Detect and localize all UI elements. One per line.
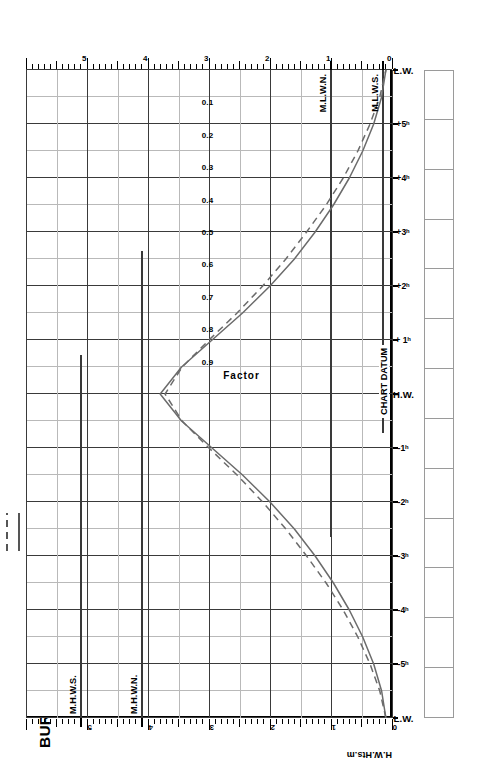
time-entry-box-1[interactable] <box>425 617 453 667</box>
factor-tick-label-0.4: 0.4 <box>202 195 213 204</box>
height-tick-right-6.0 <box>26 58 28 69</box>
label-mlws: M.L.W.S. <box>370 74 380 112</box>
height-tick-right-3.4 <box>184 64 185 69</box>
height-tick-label-left-3: 3 <box>209 723 214 732</box>
height-tick-right-1.1 <box>324 64 325 69</box>
time-entry-box-2[interactable] <box>425 567 453 617</box>
height-tick-right-0.3 <box>373 64 374 69</box>
height-tick-right-2.6 <box>233 64 234 69</box>
rotated-diagram-wrapper: BURNHAM-ON-CROUCH MEAN SPRING AND NEAP C… <box>0 0 478 774</box>
height-tick-right-2.1 <box>263 64 264 69</box>
height-tick-right-3.1 <box>202 64 203 69</box>
time-entry-box-9[interactable] <box>425 219 453 269</box>
height-tick-left-4.2 <box>135 719 136 724</box>
height-tick-left-4.1 <box>141 719 142 724</box>
height-tick-left-1.2 <box>318 719 319 724</box>
height-tick-left-4.9 <box>93 719 94 724</box>
height-tick-left-3.1 <box>202 719 203 724</box>
height-tick-right-5.7 <box>44 64 45 69</box>
label-mhws: M.H.W.S. <box>68 675 78 714</box>
height-tick-right-3.7 <box>166 64 167 69</box>
height-tick-left-3.6 <box>172 719 173 724</box>
height-tick-right-5.3 <box>68 64 69 69</box>
time-axis-label-12: L.W. <box>393 65 413 76</box>
height-tick-right-1.6 <box>294 64 295 69</box>
factor-tick-label-0.3: 0.3 <box>202 163 213 172</box>
legend-key-solid-line <box>18 513 20 551</box>
label-mlwn: M.L.W.N. <box>318 74 328 112</box>
height-tick-right-4.4 <box>123 64 124 69</box>
height-tick-left-1.7 <box>288 719 289 724</box>
height-tick-right-1.2 <box>318 64 319 69</box>
time-entry-box-12[interactable] <box>425 69 453 119</box>
height-tick-label-left-0: 0 <box>392 723 397 732</box>
height-axis-left-label: H.W.Hts.m <box>347 750 392 760</box>
height-tick-left-2.9 <box>215 719 216 724</box>
height-tick-left-1.4 <box>306 719 307 724</box>
time-entry-box-11[interactable] <box>425 119 453 169</box>
height-tick-right-0.4 <box>367 64 368 69</box>
height-tick-left-2.7 <box>227 719 228 724</box>
height-tick-left-4.5 <box>117 719 118 727</box>
height-tick-left-4.7 <box>105 719 106 724</box>
time-axis-label-8: +2ʰ <box>396 281 409 291</box>
time-entry-box-4[interactable] <box>425 468 453 518</box>
height-tick-label-right-5: 5 <box>82 54 87 63</box>
height-tick-left-0.3 <box>373 719 374 724</box>
height-tick-left-1.3 <box>312 719 313 724</box>
time-entry-box-10[interactable] <box>425 169 453 219</box>
height-tick-right-4.6 <box>111 64 112 69</box>
height-tick-right-0.8 <box>343 64 344 69</box>
chart-datum-label: CHART DATUM <box>379 345 389 418</box>
time-entry-box-7[interactable] <box>425 318 453 368</box>
time-entry-box-5[interactable] <box>425 418 453 468</box>
height-tick-left-4.6 <box>111 719 112 724</box>
height-tick-right-2.2 <box>257 64 258 69</box>
height-tick-left-0.1 <box>385 719 386 724</box>
time-axis-label-9: +3ʰ <box>396 227 409 237</box>
height-tick-left-3.3 <box>190 719 191 724</box>
height-tick-left-1.6 <box>294 719 295 724</box>
height-tick-right-1.9 <box>276 64 277 69</box>
height-tick-right-3.2 <box>196 64 197 69</box>
height-tick-right-4.5 <box>117 61 118 69</box>
height-tick-right-0.9 <box>337 64 338 69</box>
height-tick-left-0.6 <box>355 719 356 724</box>
factor-tick-label-0.1: 0.1 <box>202 98 213 107</box>
height-tick-left-0.2 <box>379 719 380 724</box>
height-tick-right-0.5 <box>361 61 362 69</box>
time-entry-box-8[interactable] <box>425 268 453 318</box>
label-mlws-tick <box>382 61 384 70</box>
height-tick-label-left-5: 5 <box>87 723 92 732</box>
height-tick-left-5.3 <box>68 719 69 724</box>
factor-tick-label-0.2: 0.2 <box>202 130 213 139</box>
height-tick-right-4.9 <box>93 64 94 69</box>
height-tick-left-2.4 <box>245 719 246 724</box>
height-tick-label-left-2: 2 <box>270 723 275 732</box>
height-tick-left-3.2 <box>196 719 197 724</box>
height-tick-right-2.5 <box>239 61 240 69</box>
height-tick-left-5.9 <box>32 719 33 724</box>
time-axis-label-2: -4ʰ <box>397 605 408 615</box>
height-tick-left-5.7 <box>44 719 45 724</box>
height-tick-left-5.4 <box>62 719 63 724</box>
height-tick-left-5.1 <box>80 719 81 724</box>
height-tick-right-5.5 <box>56 61 57 69</box>
time-entry-boxes[interactable] <box>424 70 454 718</box>
height-tick-left-1.5 <box>300 719 301 727</box>
height-tick-left-0.7 <box>349 719 350 724</box>
height-tick-right-5.6 <box>50 64 51 69</box>
height-tick-left-0.9 <box>337 719 338 724</box>
time-entry-box-6[interactable] <box>425 368 453 418</box>
time-axis-label-10: +4ʰ <box>396 173 409 183</box>
height-tick-right-5.2 <box>74 64 75 69</box>
time-entry-box-0[interactable] <box>425 667 453 717</box>
height-tick-right-2.8 <box>221 64 222 69</box>
time-axis-label-5: -1ʰ <box>397 443 408 453</box>
height-tick-left-6.0 <box>26 719 28 730</box>
time-entry-box-3[interactable] <box>425 518 453 568</box>
height-tick-left-2.6 <box>233 719 234 724</box>
height-tick-label-right-2: 2 <box>265 54 270 63</box>
height-tick-left-1.1 <box>324 719 325 724</box>
time-axis-label-11: +5ʰ <box>396 119 409 129</box>
